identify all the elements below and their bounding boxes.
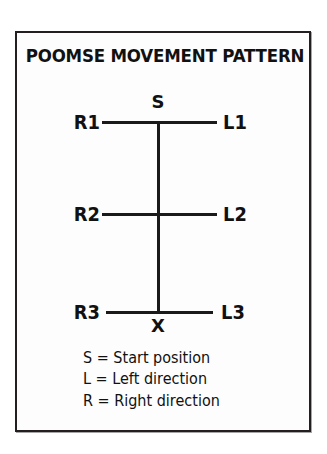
page-canvas: POOMSE MOVEMENT PATTERN R1 L1 S R2 L2 R3… xyxy=(0,0,327,454)
marker-end: X xyxy=(143,317,173,335)
legend-item: L = Left direction xyxy=(83,369,294,390)
center-vertical-line xyxy=(157,121,160,312)
marker-start: S xyxy=(143,93,173,111)
node-label-r2: R2 xyxy=(74,205,100,224)
legend-item: S = Start position xyxy=(83,348,294,369)
row-2-line xyxy=(102,213,217,216)
node-label-l3: L3 xyxy=(221,303,245,322)
legend-item: R = Right direction xyxy=(83,391,294,412)
diagram-card: POOMSE MOVEMENT PATTERN R1 L1 S R2 L2 R3… xyxy=(15,31,311,432)
node-label-r1: R1 xyxy=(74,113,100,132)
row-3-line xyxy=(106,311,213,314)
node-label-l2: L2 xyxy=(223,205,247,224)
row-1-right-segment xyxy=(160,121,217,124)
legend: S = Start position L = Left direction R … xyxy=(83,348,303,412)
node-label-l1: L1 xyxy=(223,113,247,132)
node-label-r3: R3 xyxy=(74,303,100,322)
